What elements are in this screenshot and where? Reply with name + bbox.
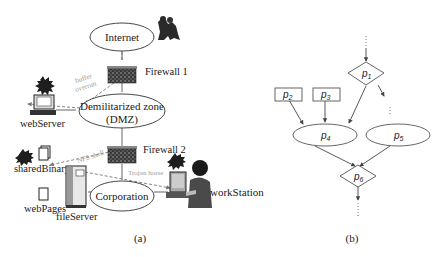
firewall-1: Firewall 1: [107, 66, 188, 83]
corporation-label: Corporation: [95, 190, 149, 202]
edge-p4-p6: [315, 146, 355, 166]
caption-a: (a): [134, 232, 147, 245]
node-p1[interactable]: p1: [348, 62, 384, 85]
dmz-node: Demilitarized zone (DMZ): [79, 94, 165, 128]
network-diagram: Internet Firewall 1 buffer overrun Demil…: [14, 16, 264, 245]
internet-node: Internet: [90, 23, 154, 51]
webserver-host: webServer: [20, 76, 65, 129]
node-p2[interactable]: p2: [275, 88, 302, 101]
workstation-label: workStation: [210, 186, 264, 198]
file-icon: [39, 188, 48, 200]
compromised-burst-icon: [35, 76, 55, 95]
node-p5[interactable]: p5: [366, 124, 430, 146]
dmz-label-line2: (DMZ): [106, 113, 138, 126]
corporation-node: Corporation: [90, 181, 154, 211]
trojan-horse-label: Trojan horse: [128, 169, 163, 177]
nfs-shell-label: NFS shell: [76, 149, 105, 165]
edge-p1-p4: [349, 86, 366, 123]
compromised-burst-icon: [167, 153, 186, 170]
internet-label: Internet: [105, 31, 139, 43]
file-icon: [39, 146, 50, 160]
edge-p5-p6: [360, 146, 390, 166]
firewall-icon: [107, 146, 137, 149]
server-icon: [66, 166, 86, 208]
attacker-icon: [158, 16, 180, 40]
edge-p2-p4: [289, 100, 303, 124]
node-p4[interactable]: p4: [293, 124, 357, 146]
computer-icon: [30, 95, 56, 115]
node-p3[interactable]: p3: [313, 88, 340, 101]
dependency-graph: p1 p2 p3 p4 p5 p6 (b): [275, 36, 430, 245]
firewall-1-label: Firewall 1: [145, 66, 188, 77]
sharedbinary-label: sharedBinary: [14, 163, 71, 174]
node-p6[interactable]: p6: [340, 165, 376, 187]
firewall-2-label: Firewall 2: [143, 144, 186, 155]
firewall-icon: [107, 66, 137, 69]
webserver-label: webServer: [20, 118, 65, 129]
dmz-label-line1: Demilitarized zone: [80, 100, 164, 112]
sharedbinary-host: sharedBinary: [14, 146, 71, 174]
workstation-host: workStation: [166, 153, 264, 208]
figure-canvas: Internet Firewall 1 buffer overrun Demil…: [0, 0, 437, 257]
caption-b: (b): [346, 232, 359, 245]
edge-p1-out: [378, 85, 384, 96]
fileserver-label: fileServer: [56, 211, 98, 222]
